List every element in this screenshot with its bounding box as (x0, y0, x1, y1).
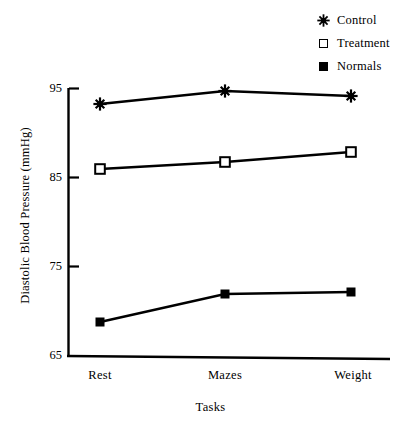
series-normals (96, 288, 356, 327)
data-point-treatment-mazes (220, 157, 230, 167)
y-axis-ticks (69, 89, 79, 267)
data-point-control-mazes (218, 84, 231, 97)
series-treatment (95, 147, 356, 174)
data-point-normals-rest (96, 318, 105, 327)
data-point-normals-weight (347, 288, 356, 297)
chart-container: Control Treatment Normals Diastolic Bloo… (0, 0, 407, 423)
data-point-control-rest (93, 97, 106, 110)
data-point-normals-mazes (221, 290, 230, 299)
data-point-treatment-rest (95, 164, 105, 174)
data-point-control-weight (344, 89, 357, 102)
series-control (93, 84, 357, 110)
plot-area (0, 0, 407, 423)
data-point-treatment-weight (346, 147, 356, 157)
